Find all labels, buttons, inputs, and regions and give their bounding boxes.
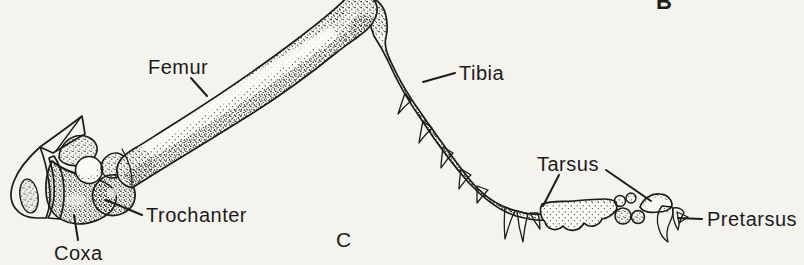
label-pretarsus: Pretarsus — [707, 208, 797, 230]
tarsus-bump — [632, 211, 645, 224]
label-trochanter: Trochanter — [146, 204, 247, 226]
panel-letter-c: C — [336, 228, 351, 251]
tarsus-bump — [626, 193, 636, 203]
leader-line-tibia — [423, 73, 455, 82]
tibia-shading — [350, 0, 560, 235]
tibia-shape — [366, 0, 546, 220]
femur-shading — [100, 0, 400, 205]
tibia-group — [350, 0, 560, 242]
leader-line-femur — [191, 78, 207, 96]
panel-letter-b: B — [656, 0, 672, 14]
tarsus-bump — [615, 196, 626, 207]
label-coxa: Coxa — [54, 242, 103, 264]
insect-leg-figure: Femur Tibia Trochanter Coxa Tarsus Preta… — [0, 0, 804, 265]
femur-group — [100, 0, 400, 205]
thorax-plate-shading — [18, 178, 41, 214]
label-femur: Femur — [148, 56, 208, 78]
figure-canvas: Femur Tibia Trochanter Coxa Tarsus Preta… — [0, 0, 804, 265]
label-tibia: Tibia — [459, 62, 504, 84]
label-tarsus: Tarsus — [537, 153, 599, 175]
trochanter-highlight — [107, 188, 117, 198]
coxa-highlight — [65, 194, 85, 206]
tarsus-bump — [615, 208, 631, 224]
pretarsus-shading — [662, 206, 670, 214]
leader-line-pretarsus — [678, 218, 702, 219]
